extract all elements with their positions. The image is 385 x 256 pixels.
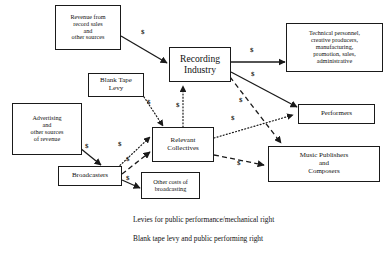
- legend-blanktape-label: Blank tape levy and public performing ri…: [133, 234, 263, 243]
- node-recording-industry[interactable]: Recording Industry: [169, 47, 231, 82]
- money-label-collectives-to-recording: $: [176, 101, 180, 109]
- edge-collectives-to-performers: [214, 115, 293, 138]
- money-label-advertising-to-broadcasters: $: [85, 142, 89, 150]
- node-advertising-label: Advertising and other sources of revenue: [29, 115, 66, 143]
- money-label-recording-to-publishers: $: [239, 96, 243, 104]
- legend-dashed-arrow-icon: [280, 214, 320, 224]
- money-label-broadcasters-to-othercosts: $: [126, 174, 130, 182]
- node-revenue[interactable]: Revenue from record sales and other sour…: [55, 5, 121, 50]
- money-label-recording-to-technical: $: [250, 46, 254, 54]
- node-other-costs[interactable]: Other costs of broadcasting: [141, 172, 200, 199]
- node-performers[interactable]: Performers: [298, 104, 375, 124]
- node-advertising[interactable]: Advertising and other sources of revenue: [12, 103, 82, 155]
- node-blank-tape-levy-label: Blank Tape Levy: [98, 77, 134, 93]
- node-technical-personnel-label: Technical personnel, creative producers,…: [307, 30, 362, 65]
- node-other-costs-label: Other costs of broadcasting: [151, 179, 190, 193]
- money-label-collectives-to-publishers: $: [237, 159, 241, 167]
- node-performers-label: Performers: [319, 110, 354, 118]
- money-label-blanktape-to-collectives: $: [147, 98, 151, 106]
- node-relevant-collectives[interactable]: Relevant Collectives: [152, 127, 214, 162]
- money-label-broadcasters-to-collectives-dotted: $: [118, 140, 122, 148]
- node-blank-tape-levy[interactable]: Blank Tape Levy: [88, 73, 144, 97]
- money-label-recording-to-performers: $: [251, 70, 255, 78]
- node-recording-industry-label: Recording Industry: [178, 54, 222, 75]
- node-broadcasters[interactable]: Broadcasters: [58, 166, 122, 186]
- edge-recording-to-publishers: [230, 77, 281, 143]
- node-broadcasters-label: Broadcasters: [70, 172, 110, 180]
- edge-revenue-to-recording: [121, 36, 167, 63]
- node-technical-personnel[interactable]: Technical personnel, creative producers,…: [286, 23, 383, 72]
- legend-row-blanktape: Blank tape levy and public performing ri…: [133, 233, 309, 243]
- node-revenue-label: Revenue from record sales and other sour…: [68, 14, 107, 42]
- diagram-canvas: Revenue from record sales and other sour…: [0, 0, 385, 256]
- money-label-broadcasters-to-collectives-dashed: $: [126, 155, 130, 163]
- node-relevant-collectives-label: Relevant Collectives: [165, 137, 201, 153]
- legend-dotted-arrow-icon: [269, 233, 309, 243]
- money-label-revenue-to-recording: $: [141, 28, 145, 36]
- edge-broadcasters-to-othercosts: [122, 180, 140, 188]
- node-music-publishers[interactable]: Music Publishers and Composers: [268, 146, 380, 182]
- money-label-collectives-to-performers: $: [231, 114, 235, 122]
- edge-advertising-to-broadcasters: [80, 148, 101, 165]
- node-music-publishers-label: Music Publishers and Composers: [298, 152, 350, 175]
- legend-row-levies: Levies for public performance/mechanical…: [133, 214, 320, 224]
- legend-levies-label: Levies for public performance/mechanical…: [133, 215, 274, 224]
